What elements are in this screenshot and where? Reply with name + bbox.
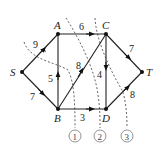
node-T [140,70,144,74]
weight-C-T: 7 [129,43,134,54]
node-B [56,107,60,111]
node-label-A: A [53,19,61,31]
weight-S-A: 9 [33,39,38,50]
arrow-icon [38,89,43,94]
network-flow-diagram: S A C T B D 9 7 5 6 8 4 3 7 8 1 2 3 [0,0,160,143]
weight-A-C: 6 [79,21,84,32]
node-label-S: S [10,66,16,78]
cut-line-1 [24,42,75,128]
weight-B-C: 8 [76,60,81,71]
cut-label-1: 1 [73,132,78,142]
node-C [104,32,108,36]
weight-S-B: 7 [30,91,35,102]
node-label-C: C [102,19,110,31]
weight-B-D: 3 [80,112,85,123]
node-label-B: B [54,112,61,124]
weight-B-A: 5 [48,73,53,84]
node-D [104,107,108,111]
arrow-icon [124,87,128,91]
weight-C-D: 4 [97,69,102,80]
node-S [20,70,24,74]
arrow-icon [40,49,44,53]
cut-label-3: 3 [125,132,130,142]
node-label-D: D [101,112,110,124]
node-label-T: T [146,66,153,78]
cut-label-2: 2 [98,132,103,142]
arrow-icon [78,70,82,77]
node-A [56,32,60,36]
weight-D-T: 8 [130,89,135,100]
